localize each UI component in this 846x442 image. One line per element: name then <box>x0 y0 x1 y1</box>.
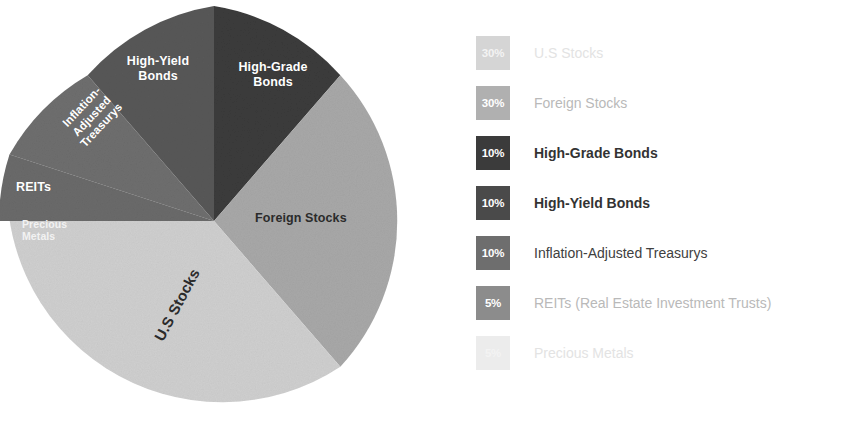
legend-item-high-grade-bonds[interactable]: 10% High-Grade Bonds <box>476 136 842 170</box>
legend-item-reits[interactable]: 5% REITs (Real Estate Investment Trusts) <box>476 286 842 320</box>
legend-item-foreign-stocks[interactable]: 30% Foreign Stocks <box>476 86 842 120</box>
legend-label-high-grade-bonds: High-Grade Bonds <box>534 145 658 161</box>
legend-swatch-foreign-stocks: 30% <box>476 86 510 120</box>
legend-item-us-stocks[interactable]: 30% U.S Stocks <box>476 36 842 70</box>
legend-item-high-yield-bonds[interactable]: 10% High-Yield Bonds <box>476 186 842 220</box>
legend-label-foreign-stocks: Foreign Stocks <box>534 95 627 111</box>
legend-swatch-precious-metals: 5% <box>476 336 510 370</box>
legend-swatch-inflation-adjusted-treasurys: 10% <box>476 236 510 270</box>
chart-legend: 30% U.S Stocks 30% Foreign Stocks 10% Hi… <box>476 36 842 370</box>
legend-label-inflation-adjusted-treasurys: Inflation-Adjusted Treasurys <box>534 245 708 261</box>
legend-label-high-yield-bonds: High-Yield Bonds <box>534 195 650 211</box>
legend-swatch-high-grade-bonds: 10% <box>476 136 510 170</box>
pie-chart-svg <box>0 0 440 442</box>
chart-canvas: High-Grade Bonds Foreign Stocks U.S Stoc… <box>0 0 846 442</box>
legend-label-precious-metals: Precious Metals <box>534 345 634 361</box>
legend-item-precious-metals[interactable]: 5% Precious Metals <box>476 336 842 370</box>
legend-label-reits: REITs (Real Estate Investment Trusts) <box>534 295 771 311</box>
legend-item-inflation-adjusted-treasurys[interactable]: 10% Inflation-Adjusted Treasurys <box>476 236 842 270</box>
legend-swatch-reits: 5% <box>476 286 510 320</box>
legend-swatch-high-yield-bonds: 10% <box>476 186 510 220</box>
legend-label-us-stocks: U.S Stocks <box>534 45 603 61</box>
pie-chart: High-Grade Bonds Foreign Stocks U.S Stoc… <box>0 0 440 442</box>
legend-swatch-us-stocks: 30% <box>476 36 510 70</box>
